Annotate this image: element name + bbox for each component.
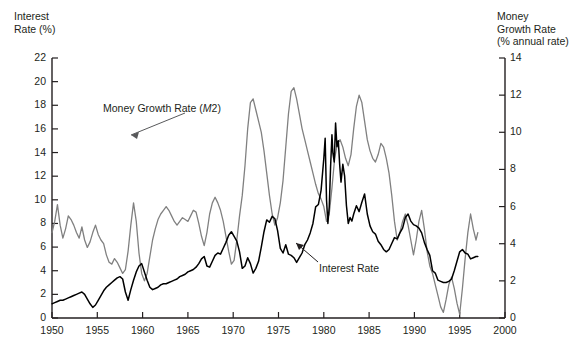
bottom-axis-ticks bbox=[52, 312, 505, 318]
ytick-right-8: 8 bbox=[510, 162, 536, 174]
ytick-left-2: 2 bbox=[20, 287, 46, 299]
ytick-right-10: 10 bbox=[510, 125, 536, 137]
left-axis-ticks bbox=[52, 58, 58, 318]
xtick-1995: 1995 bbox=[440, 324, 480, 336]
xtick-1960: 1960 bbox=[123, 324, 163, 336]
interest-rate-money-growth-chart: InterestRate (%) MoneyGrowth Rate(% annu… bbox=[0, 0, 583, 347]
xtick-1955: 1955 bbox=[77, 324, 117, 336]
ytick-left-0: 0 bbox=[20, 311, 46, 323]
plot-area bbox=[0, 0, 583, 347]
series-lines bbox=[52, 88, 478, 315]
xtick-2000: 2000 bbox=[485, 324, 525, 336]
ytick-left-16: 16 bbox=[20, 122, 46, 134]
interest-rate-line bbox=[52, 123, 478, 307]
xtick-1990: 1990 bbox=[394, 324, 434, 336]
ytick-left-14: 14 bbox=[20, 146, 46, 158]
ytick-left-20: 20 bbox=[20, 75, 46, 87]
ytick-left-22: 22 bbox=[20, 51, 46, 63]
xtick-1985: 1985 bbox=[349, 324, 389, 336]
right-axis-ticks bbox=[499, 58, 505, 318]
xtick-1970: 1970 bbox=[213, 324, 253, 336]
ytick-right-4: 4 bbox=[510, 237, 536, 249]
xtick-1975: 1975 bbox=[259, 324, 299, 336]
ytick-left-6: 6 bbox=[20, 240, 46, 252]
annotation-arrows bbox=[131, 113, 318, 262]
ytick-right-6: 6 bbox=[510, 200, 536, 212]
ytick-right-12: 12 bbox=[510, 88, 536, 100]
ytick-left-18: 18 bbox=[20, 98, 46, 110]
xtick-1950: 1950 bbox=[32, 324, 72, 336]
ytick-right-2: 2 bbox=[510, 274, 536, 286]
money-growth-line bbox=[52, 88, 478, 315]
xtick-1965: 1965 bbox=[168, 324, 208, 336]
ytick-left-12: 12 bbox=[20, 169, 46, 181]
ytick-left-8: 8 bbox=[20, 216, 46, 228]
ytick-left-10: 10 bbox=[20, 193, 46, 205]
xtick-1980: 1980 bbox=[304, 324, 344, 336]
ytick-right-0: 0 bbox=[510, 311, 536, 323]
ytick-left-4: 4 bbox=[20, 264, 46, 276]
ytick-right-14: 14 bbox=[510, 51, 536, 63]
